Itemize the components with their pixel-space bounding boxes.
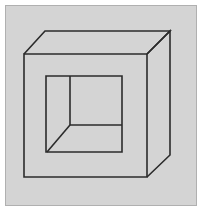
figure-container: [0, 0, 204, 214]
figure-panel-background: [5, 5, 196, 205]
cube-figure: [0, 0, 204, 214]
